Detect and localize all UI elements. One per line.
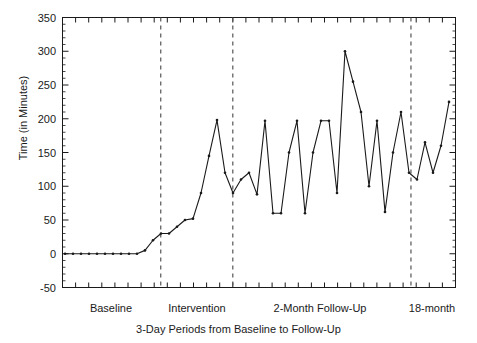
- data-point: [328, 119, 331, 122]
- data-series-markers: [64, 50, 451, 255]
- data-point: [216, 119, 219, 122]
- data-point: [304, 212, 307, 215]
- data-point: [232, 192, 235, 195]
- phase-label: 18-month: [409, 302, 455, 314]
- data-point: [88, 252, 91, 255]
- plot-canvas: [0, 0, 477, 343]
- phase-label: Baseline: [90, 302, 132, 314]
- data-point: [264, 119, 267, 122]
- phase-label: Intervention: [168, 302, 225, 314]
- data-point: [208, 155, 211, 158]
- x-axis-label: 3-Day Periods from Baseline to Follow-Up: [0, 323, 477, 335]
- data-point: [408, 171, 411, 174]
- data-point: [224, 171, 227, 174]
- data-point: [248, 171, 251, 174]
- data-point: [240, 178, 243, 181]
- data-point: [344, 50, 347, 53]
- y-axis-minor-ticks: [63, 24, 456, 281]
- data-point: [376, 119, 379, 122]
- data-point: [80, 252, 83, 255]
- y-axis-label: Time (in Minutes): [17, 53, 29, 183]
- line-chart-figure: -50050100150200250300350 Time (in Minute…: [0, 0, 477, 343]
- data-point: [136, 252, 139, 255]
- data-point: [168, 232, 171, 235]
- data-point: [200, 192, 203, 195]
- plot-frame: [63, 18, 456, 288]
- data-point: [400, 111, 403, 114]
- data-point: [440, 144, 443, 147]
- data-point: [352, 80, 355, 83]
- y-tick-label: 50: [18, 214, 56, 226]
- data-point: [64, 252, 67, 255]
- data-point: [152, 239, 155, 242]
- data-point: [96, 252, 99, 255]
- phase-label: 2-Month Follow-Up: [274, 302, 367, 314]
- data-point: [320, 119, 323, 122]
- data-point: [192, 217, 195, 220]
- data-point: [424, 141, 427, 144]
- data-point: [384, 211, 387, 214]
- y-tick-label: 350: [18, 12, 56, 24]
- x-axis-major-ticks: [63, 18, 456, 288]
- y-tick-label: 0: [18, 248, 56, 260]
- data-point: [288, 151, 291, 154]
- data-point: [416, 178, 419, 181]
- data-point: [296, 119, 299, 122]
- data-point: [128, 252, 131, 255]
- data-point: [144, 249, 147, 252]
- data-point: [280, 212, 283, 215]
- data-point: [72, 252, 75, 255]
- data-point: [160, 232, 163, 235]
- y-tick-label: -50: [18, 282, 56, 294]
- data-point: [184, 219, 187, 222]
- data-point: [120, 252, 123, 255]
- data-point: [336, 192, 339, 195]
- data-point: [112, 252, 115, 255]
- data-point: [256, 193, 259, 196]
- data-point: [104, 252, 107, 255]
- data-point: [448, 101, 451, 104]
- data-point: [360, 111, 363, 114]
- data-point: [392, 151, 395, 154]
- y-axis-major-ticks: [63, 18, 456, 288]
- data-point: [312, 151, 315, 154]
- data-series-line: [65, 51, 449, 254]
- data-point: [272, 212, 275, 215]
- data-point: [368, 185, 371, 188]
- data-point: [176, 225, 179, 228]
- data-point: [432, 171, 435, 174]
